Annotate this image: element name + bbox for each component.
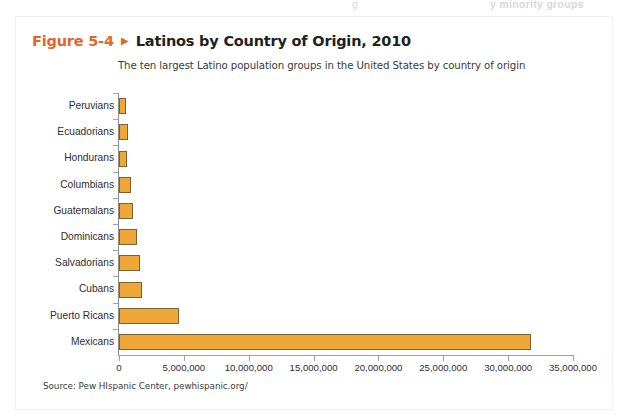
source-note: Source: Pew HIspanic Center, pewhispanic…	[43, 381, 248, 391]
bleed-fragment-left: g	[352, 0, 358, 10]
x-axis-tick-label: 0	[116, 362, 121, 373]
bar	[119, 177, 131, 193]
category-label: Mexicans	[71, 329, 114, 355]
x-axis-tick	[119, 356, 120, 361]
x-axis-tick	[314, 356, 315, 361]
category-label: Ecuadorians	[57, 119, 114, 145]
y-axis-tick	[113, 93, 118, 94]
bar	[119, 124, 128, 140]
category-label: Hondurans	[64, 145, 114, 171]
y-axis-tick	[113, 172, 118, 173]
x-axis-tick-label: 20,000,000	[354, 362, 402, 373]
category-label: Puerto Ricans	[50, 303, 114, 329]
x-axis-tick-label: 5,000,000	[163, 362, 206, 373]
bar	[119, 229, 137, 245]
triangle-right-icon: ▶	[121, 36, 129, 46]
x-axis-tick-label: 25,000,000	[419, 362, 467, 373]
figure-number: Figure 5-4	[32, 33, 114, 49]
x-axis-tick	[508, 356, 509, 361]
y-axis-category-labels: PeruviansEcuadoriansHonduransColumbiansG…	[16, 93, 114, 355]
y-axis-tick	[113, 303, 118, 304]
x-axis-tick	[443, 356, 444, 361]
x-axis-tick-label: 35,000,000	[549, 362, 597, 373]
y-axis-tick	[113, 250, 118, 251]
bar	[119, 151, 127, 167]
bar	[119, 255, 140, 271]
y-axis-tick	[113, 276, 118, 277]
bar	[119, 98, 126, 114]
x-axis-tick	[573, 356, 574, 361]
plot-area	[119, 93, 573, 355]
x-axis-line	[118, 355, 574, 356]
category-label: Guatemalans	[53, 198, 114, 224]
y-axis-tick	[113, 198, 118, 199]
bar	[119, 334, 531, 350]
y-axis-tick	[113, 224, 118, 225]
x-axis-tick-label: 15,000,000	[290, 362, 338, 373]
y-axis-tick	[113, 119, 118, 120]
page-bleed-text: g y minority groups	[0, 0, 630, 14]
y-axis-tick	[113, 329, 118, 330]
category-label: Cubans	[79, 276, 114, 302]
category-label: Salvadorians	[55, 250, 114, 276]
category-label: Columbians	[60, 172, 114, 198]
figure-header: Figure 5-4 ▶ Latinos by Country of Origi…	[32, 33, 592, 83]
bar	[119, 203, 133, 219]
figure-label-row: Figure 5-4 ▶ Latinos by Country of Origi…	[32, 33, 592, 55]
x-axis-tick	[378, 356, 379, 361]
figure-title: Latinos by Country of Origin, 2010	[136, 33, 411, 49]
figure-container: Figure 5-4 ▶ Latinos by Country of Origi…	[15, 16, 613, 410]
category-label: Dominicans	[61, 224, 114, 250]
bar-chart: PeruviansEcuadoriansHonduransColumbiansG…	[16, 91, 614, 381]
x-axis-tick-label: 10,000,000	[225, 362, 273, 373]
bar	[119, 282, 142, 298]
bar	[119, 308, 179, 324]
y-axis-tick	[113, 145, 118, 146]
x-axis-tick-label: 30,000,000	[484, 362, 532, 373]
bleed-fragment-right: y minority groups	[490, 0, 584, 10]
x-axis-tick	[184, 356, 185, 361]
x-axis-tick	[249, 356, 250, 361]
figure-subtitle: The ten largest Latino population groups…	[118, 60, 592, 71]
category-label: Peruvians	[69, 93, 114, 119]
